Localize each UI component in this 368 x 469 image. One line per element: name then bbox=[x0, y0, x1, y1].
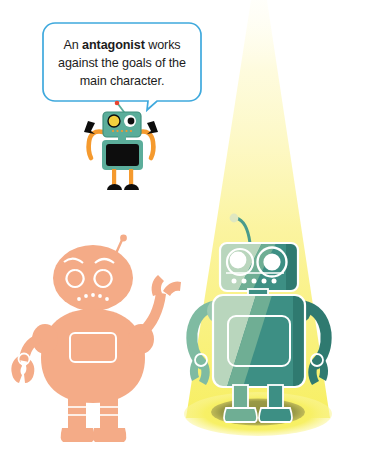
small-pupil-right bbox=[128, 118, 135, 125]
small-left-leg bbox=[112, 169, 116, 186]
illustration-scene: An antagonist works against the goals of… bbox=[0, 0, 368, 469]
small-left-foot bbox=[107, 184, 122, 190]
small-robot bbox=[84, 101, 158, 190]
small-right-leg bbox=[129, 169, 133, 186]
small-left-arm bbox=[89, 131, 103, 158]
small-robot-layer bbox=[0, 0, 368, 469]
small-antenna-tip bbox=[115, 101, 120, 106]
small-screen bbox=[106, 144, 139, 166]
small-right-foot bbox=[124, 184, 139, 190]
small-eye-left bbox=[108, 115, 120, 127]
small-antenna-stem bbox=[118, 104, 124, 112]
